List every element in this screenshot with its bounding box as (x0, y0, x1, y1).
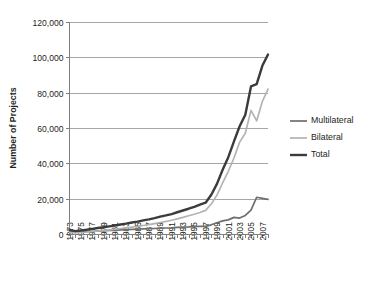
chart-container: 020,00040,00060,00080,000100,000120,000 … (0, 0, 377, 285)
y-tick-label: 100,000 (32, 53, 63, 63)
x-tick-label: 2003 (236, 222, 245, 241)
x-tick-label: 1993 (179, 222, 188, 241)
y-axis-title: Number of Projects (8, 87, 18, 168)
x-tick-label: 1985 (134, 222, 143, 241)
x-tick-label: 1995 (190, 222, 199, 241)
legend-label-bilateral: Bilateral (311, 132, 343, 142)
gridlines-group (70, 23, 269, 200)
y-axis-labels: 020,00040,00060,00080,000100,000120,000 (32, 18, 63, 240)
y-axis-ticks (66, 23, 70, 235)
y-tick-label: 120,000 (32, 18, 63, 28)
x-tick-label: 1989 (156, 222, 165, 241)
y-tick-label: 80,000 (37, 89, 64, 99)
line-chart: 020,00040,00060,00080,000100,000120,000 … (0, 0, 377, 285)
series-line-total (70, 55, 269, 232)
legend-label-total: Total (311, 149, 330, 159)
x-tick-label: 2005 (247, 222, 256, 241)
y-tick-label: 40,000 (37, 159, 64, 169)
y-tick-label: 0 (59, 230, 64, 240)
legend-label-multilateral: Multilateral (311, 115, 354, 125)
y-tick-label: 60,000 (37, 124, 64, 134)
legend: MultilateralBilateralTotal (290, 115, 354, 159)
y-tick-label: 20,000 (37, 195, 64, 205)
x-tick-label: 2001 (225, 222, 234, 241)
series-line-bilateral (70, 89, 269, 233)
x-tick-label: 2007 (259, 222, 268, 241)
x-tick-label: 1991 (168, 222, 177, 241)
data-series-group (70, 55, 269, 233)
x-tick-label: 1999 (213, 222, 222, 241)
